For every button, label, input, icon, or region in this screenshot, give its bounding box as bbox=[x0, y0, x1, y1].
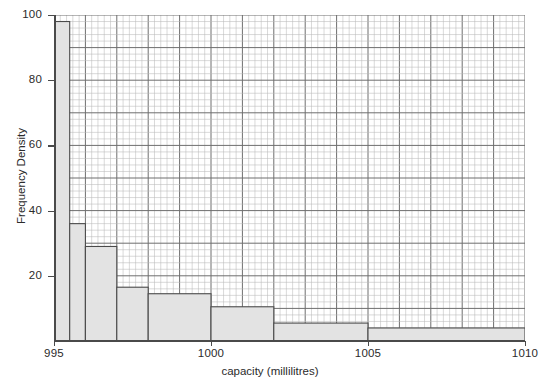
y-tick-label: 80 bbox=[6, 73, 42, 85]
x-tick-label: 1010 bbox=[495, 347, 545, 359]
histogram-bar bbox=[117, 287, 148, 341]
x-tick-mark bbox=[211, 341, 212, 346]
y-tick-label: 20 bbox=[6, 269, 42, 281]
x-axis-line bbox=[54, 340, 525, 342]
x-tick-label: 1005 bbox=[338, 347, 398, 359]
x-tick-label: 995 bbox=[24, 347, 84, 359]
y-axis-title: Frequency Density bbox=[15, 106, 27, 246]
plot-area bbox=[54, 15, 525, 341]
x-tick-mark bbox=[368, 341, 369, 346]
y-tick-mark bbox=[48, 211, 54, 212]
y-tick-mark bbox=[48, 15, 54, 16]
y-tick-mark bbox=[48, 80, 54, 81]
x-tick-label: 1000 bbox=[181, 347, 241, 359]
histogram-bar bbox=[274, 323, 368, 341]
histogram-chart: 20406080100 995100010051010 Frequency De… bbox=[0, 0, 545, 386]
x-tick-mark bbox=[525, 341, 526, 346]
histogram-bar bbox=[70, 224, 86, 341]
histogram-bars bbox=[54, 15, 525, 341]
histogram-bar bbox=[85, 246, 116, 341]
histogram-bar bbox=[54, 22, 70, 341]
x-tick-mark bbox=[54, 341, 55, 346]
histogram-bar bbox=[148, 294, 211, 341]
y-tick-mark bbox=[48, 276, 54, 277]
y-axis-line bbox=[54, 15, 56, 341]
y-tick-mark bbox=[48, 145, 54, 146]
histogram-bar bbox=[211, 307, 274, 341]
histogram-bar bbox=[368, 328, 525, 341]
x-axis-title: capacity (millilitres) bbox=[140, 365, 400, 377]
y-tick-label: 100 bbox=[6, 8, 42, 20]
